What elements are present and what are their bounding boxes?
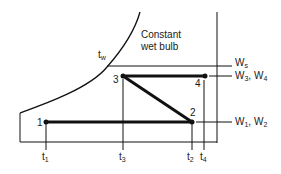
ws-sub: s xyxy=(244,62,248,69)
t1-label: t1 xyxy=(42,152,49,163)
t2-sub: 2 xyxy=(190,156,194,163)
annotation-line-2: wet bulb xyxy=(141,41,181,53)
process-2-3 xyxy=(123,76,192,122)
t2-label: t2 xyxy=(187,152,194,163)
tw-sub: w xyxy=(101,54,106,61)
w1-w2-label: W1, W2 xyxy=(235,117,267,128)
point-3-marker xyxy=(121,74,126,79)
t4-label: t4 xyxy=(200,152,207,163)
constant-wet-bulb-label: Constant wet bulb xyxy=(141,29,181,53)
w3-w4-label: W3, W4 xyxy=(235,71,267,82)
t4-sub: 4 xyxy=(203,156,207,163)
point-1-label: 1 xyxy=(37,118,43,128)
t3-sub: 3 xyxy=(122,156,126,163)
w4-base: W xyxy=(254,70,263,81)
psychrometric-diagram xyxy=(0,0,281,174)
point-4-label: 4 xyxy=(195,79,201,89)
w4-sub: 4 xyxy=(263,75,267,82)
point-2-label: 2 xyxy=(190,108,196,118)
saturation-curve xyxy=(20,12,140,113)
point-2-marker xyxy=(190,120,195,125)
point-4-marker xyxy=(203,74,208,79)
point-1-marker xyxy=(44,120,49,125)
w2-sub: 2 xyxy=(263,121,267,128)
ws-label: Ws xyxy=(235,58,248,69)
w2-base: W xyxy=(254,116,263,127)
point-3-label: 3 xyxy=(113,75,119,85)
t1-sub: 1 xyxy=(45,156,49,163)
tw-label: tw xyxy=(98,50,106,61)
t3-label: t3 xyxy=(119,152,126,163)
annotation-line-1: Constant xyxy=(141,29,181,41)
